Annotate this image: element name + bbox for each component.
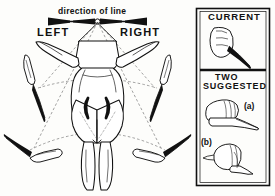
right-side-label: RIGHT (120, 27, 160, 38)
direction-of-line-label: direction of line (58, 7, 126, 16)
left-side-label: LEFT (37, 27, 69, 38)
left-diagram-group (4, 18, 192, 190)
panel-suggested-heading-line2: SUGGESTED (203, 82, 267, 91)
knife-upper-left (24, 55, 46, 122)
figure-root: direction of line LEFT RIGHT CURRENT TWO… (0, 0, 275, 196)
cone-of-view-lines (78, 23, 117, 42)
knife-lower-left (4, 134, 62, 162)
double-headed-horizontal-arrow (48, 18, 147, 26)
knife-upper-right (150, 55, 172, 122)
carcass-rear-view (36, 41, 159, 190)
sublabel-b: (b) (201, 138, 212, 147)
panel-current-heading: CURRENT (208, 12, 261, 22)
sublabel-a: (a) (244, 102, 254, 111)
knife-lower-right (133, 134, 191, 162)
